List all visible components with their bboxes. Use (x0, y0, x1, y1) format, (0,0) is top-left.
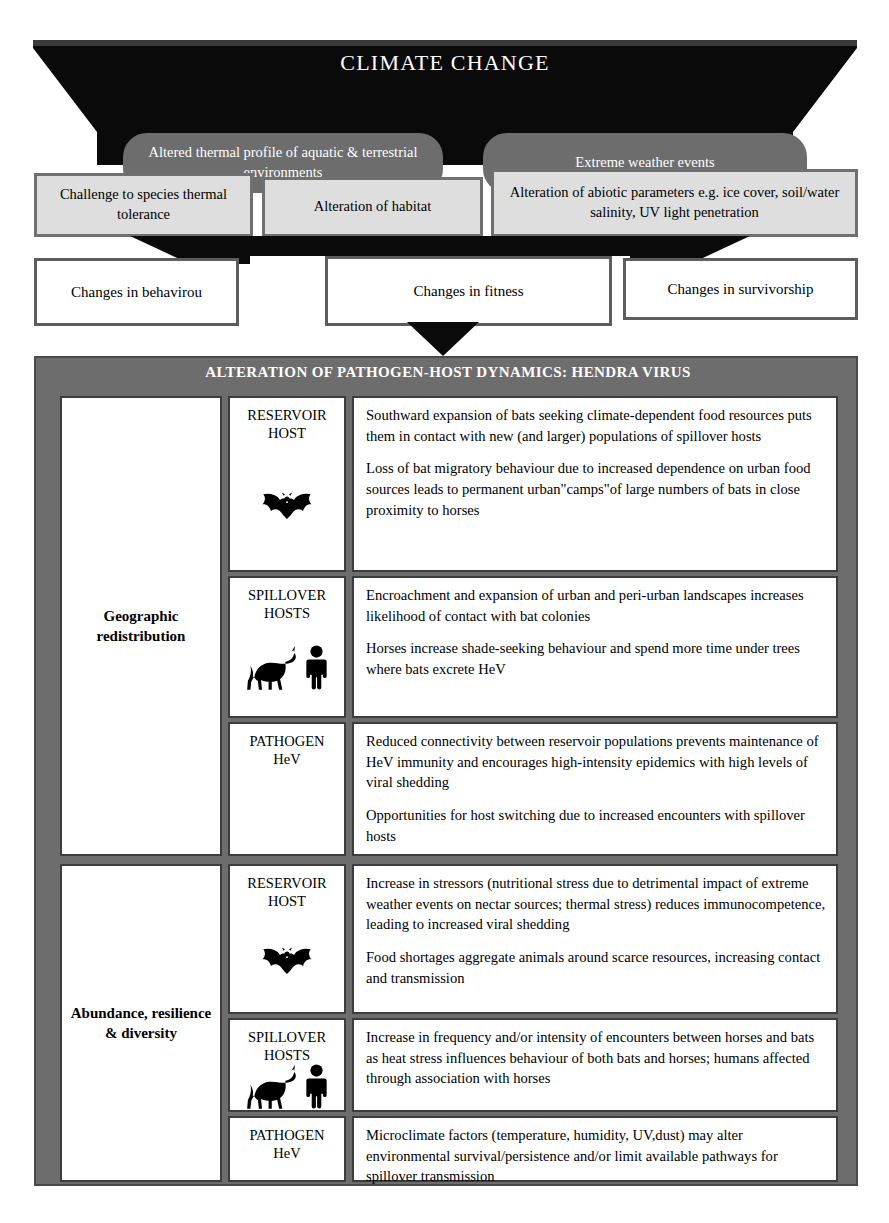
host-cell: SPILLOVER HOSTS (228, 576, 346, 718)
host-label: RESERVOIR HOST (247, 874, 326, 910)
horse-human-icon (246, 645, 329, 694)
detail-cell: Reduced connectivity between reservoir p… (352, 722, 838, 856)
grey-box-alteration-of-habitat: Alteration of habitat (262, 177, 483, 237)
host-cell: SPILLOVER HOSTS (228, 1018, 346, 1112)
detail-paragraph: Reduced connectivity between reservoir p… (366, 731, 826, 793)
detail-cell: Encroachment and expansion of urban and … (352, 576, 838, 718)
detail-paragraph: Microclimate factors (temperature, humid… (366, 1125, 826, 1187)
category-cell: Geographic redistribution (60, 396, 222, 856)
detail-paragraph: Increase in stressors (nutritional stres… (366, 873, 826, 935)
host-cell: PATHOGEN HeV (228, 1116, 346, 1182)
category-label: Geographic redistribution (66, 606, 216, 647)
host-cell: RESERVOIR HOST (228, 396, 346, 572)
category-label: Abundance, resilience & diversity (66, 1003, 216, 1044)
white-box-changes-in-behaviour: Changes in behavirou (34, 258, 239, 326)
bat-icon (256, 492, 318, 521)
host-cell: PATHOGEN HeV (228, 722, 346, 856)
white-box-label: Changes in survivorship (668, 279, 814, 299)
white-box-label: Changes in fitness (414, 281, 524, 301)
grey-box-alteration-abiotic-parameters: Alteration of abiotic parameters e.g. ic… (491, 169, 858, 237)
human-icon (304, 645, 329, 690)
bat-icon (256, 947, 318, 976)
detail-paragraph: Encroachment and expansion of urban and … (366, 585, 826, 626)
detail-paragraph: Opportunities for host switching due to … (366, 805, 826, 846)
pathogen-host-dynamics-table: ALTERATION OF PATHOGEN-HOST DYNAMICS: HE… (34, 356, 858, 1186)
host-label: SPILLOVER HOSTS (248, 1028, 326, 1064)
host-label: RESERVOIR HOST (247, 406, 326, 442)
detail-cell: Southward expansion of bats seeking clim… (352, 396, 838, 572)
detail-paragraph: Horses increase shade-seeking behaviour … (366, 638, 826, 679)
white-box-changes-in-survivorship: Changes in survivorship (623, 258, 858, 320)
grey-box-challenge-thermal-tolerance: Challenge to species thermal tolerance (34, 173, 253, 237)
host-icon-holder (256, 910, 318, 1012)
host-icon-holder (256, 442, 318, 570)
horse-icon (246, 1064, 298, 1109)
table-title: ALTERATION OF PATHOGEN-HOST DYNAMICS: HE… (36, 364, 860, 381)
horse-human-icon (246, 1064, 329, 1113)
detail-cell: Increase in frequency and/or intensity o… (352, 1018, 838, 1112)
host-label: PATHOGEN HeV (249, 732, 324, 768)
detail-paragraph: Loss of bat migratory behaviour due to i… (366, 458, 826, 520)
grey-box-label: Alteration of habitat (314, 197, 432, 217)
grey-box-label: Challenge to species thermal tolerance (45, 185, 242, 224)
host-cell: RESERVOIR HOST (228, 864, 346, 1014)
host-icon-holder (246, 1064, 329, 1113)
detail-paragraph: Increase in frequency and/or intensity o… (366, 1027, 826, 1089)
detail-paragraph: Food shortages aggregate animals around … (366, 947, 826, 988)
banner-title: CLIMATE CHANGE (33, 50, 857, 76)
white-box-label: Changes in behavirou (71, 282, 202, 302)
grey-box-label: Alteration of abiotic parameters e.g. ic… (502, 183, 847, 222)
detail-paragraph: Southward expansion of bats seeking clim… (366, 405, 826, 446)
diagram-canvas: CLIMATE CHANGE Altered thermal profile o… (0, 0, 889, 1223)
horse-icon (246, 645, 298, 690)
detail-cell: Increase in stressors (nutritional stres… (352, 864, 838, 1014)
category-cell: Abundance, resilience & diversity (60, 864, 222, 1182)
host-label: PATHOGEN HeV (249, 1126, 324, 1162)
host-icon-holder (246, 622, 329, 716)
arrow-down-icon (407, 322, 479, 356)
white-box-changes-in-fitness: Changes in fitness (325, 256, 612, 326)
human-icon (304, 1064, 329, 1109)
detail-cell: Microclimate factors (temperature, humid… (352, 1116, 838, 1182)
climate-change-banner: CLIMATE CHANGE Altered thermal profile o… (33, 40, 857, 165)
host-label: SPILLOVER HOSTS (248, 586, 326, 622)
